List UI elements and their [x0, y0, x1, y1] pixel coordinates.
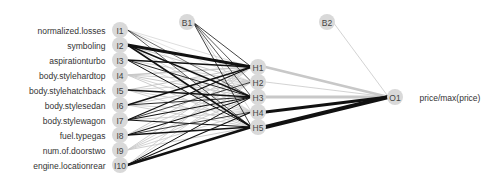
node-id-text: I2 — [116, 41, 123, 51]
input-label-i10: engine.locationrear — [33, 161, 105, 171]
node-id-text: I1 — [116, 26, 123, 36]
node-i6: I6 — [112, 97, 128, 113]
edge-i10-h3 — [128, 97, 252, 165]
input-label-i7: body.stylewagon — [43, 116, 106, 126]
input-label-i4: body.stylehardtop — [39, 71, 106, 81]
node-id-text: B1 — [182, 18, 193, 28]
node-h1: H1 — [250, 59, 266, 75]
node-h4: H4 — [250, 104, 266, 120]
edge-i10-h5 — [128, 127, 252, 165]
node-id-text: I6 — [116, 101, 123, 111]
node-i7: I7 — [112, 112, 128, 128]
node-i4: I4 — [112, 67, 128, 83]
edge-h5-o1 — [266, 97, 389, 127]
node-b1: B1 — [179, 14, 195, 30]
node-i8: I8 — [112, 127, 128, 143]
node-id-text: I9 — [116, 146, 123, 156]
node-id-text: H3 — [253, 93, 264, 103]
input-label-i9: num.of.doorstwo — [43, 146, 106, 156]
node-i1: I1 — [112, 22, 128, 38]
node-id-text: I4 — [116, 71, 123, 81]
node-id-text: I5 — [116, 86, 123, 96]
node-id-text: I7 — [116, 116, 123, 126]
input-label-i6: body.stylesedan — [45, 101, 106, 111]
node-h2: H2 — [250, 74, 266, 90]
neural-network-diagram: I1I2I3I4I5I6I7I8I9I10B1B2H1H2H3H4H5O1 no… — [0, 0, 495, 184]
node-h3: H3 — [250, 89, 266, 105]
edge-h2-o1 — [266, 82, 389, 97]
input-label-i1: normalized.losses — [37, 26, 105, 36]
node-i5: I5 — [112, 82, 128, 98]
node-id-text: B2 — [322, 18, 333, 28]
node-id-text: O1 — [389, 93, 401, 103]
output-label-o1: price/max(price) — [420, 93, 481, 103]
node-i9: I9 — [112, 142, 128, 158]
input-label-i2: symboling — [67, 41, 106, 51]
input-label-i8: fuel.typegas — [60, 131, 106, 141]
node-id-text: H4 — [253, 108, 264, 118]
node-i3: I3 — [112, 52, 128, 68]
node-o1: O1 — [387, 89, 403, 105]
node-id-text: H1 — [253, 63, 264, 73]
node-id-text: H5 — [253, 123, 264, 133]
node-h5: H5 — [250, 119, 266, 135]
input-label-i5: body.stylehatchback — [29, 86, 106, 96]
node-i10: I10 — [112, 157, 128, 173]
node-i2: I2 — [112, 37, 128, 53]
node-id-text: I10 — [114, 161, 126, 171]
node-b2: B2 — [319, 14, 335, 30]
edge-i10-h4 — [128, 112, 252, 165]
input-label-i3: aspirationturbo — [49, 56, 106, 66]
node-id-text: I3 — [116, 56, 123, 66]
node-id-text: H2 — [253, 78, 264, 88]
edge-h4-o1 — [266, 97, 389, 112]
node-id-text: I8 — [116, 131, 123, 141]
